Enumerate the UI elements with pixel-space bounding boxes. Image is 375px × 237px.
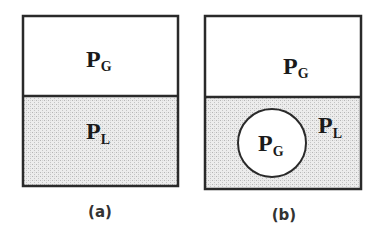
panel-a: PG PL (a): [23, 16, 178, 221]
panel-b: PG PG PL (b): [205, 16, 361, 224]
diagram-canvas: PG PL (a) PG PG PL (b): [0, 0, 375, 237]
caption-a: (a): [88, 203, 112, 221]
caption-b: (b): [272, 206, 296, 224]
